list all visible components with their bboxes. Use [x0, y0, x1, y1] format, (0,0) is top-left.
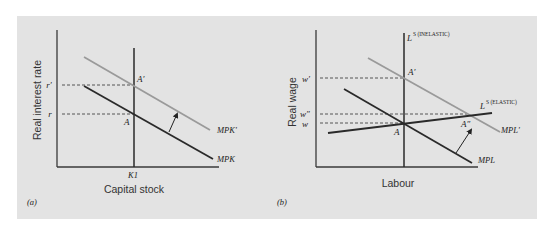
panel-b-ls-inelastic-label: L: [406, 33, 412, 43]
panel-a-tag: (a): [27, 197, 37, 207]
panel-b-shift-arrow-icon: [456, 130, 471, 153]
panel-a-r-label: r: [48, 109, 52, 119]
panel-b-w-label: w: [302, 119, 308, 129]
panel-a-x-axis-title: Capital stock: [104, 183, 165, 195]
panel-b-w-prime-label: w′: [302, 74, 311, 84]
panel-b-tag: (b): [277, 197, 287, 207]
panel-a: Real interest rate Capital stock (a) r′ …: [27, 30, 237, 207]
panel-b-ls-inelastic-sup: S (INELASTIC): [413, 31, 450, 38]
panel-a-point-a: A: [123, 117, 130, 127]
panel-b: Real wage Labour (b) w′ w″ w A′ A A″ L S…: [277, 30, 520, 207]
panel-a-shift-arrow-icon: [169, 114, 177, 132]
panel-a-mpk-prime-curve: [84, 57, 210, 130]
panel-b-mpl-label: MPL: [477, 155, 495, 165]
panel-b-ls-elastic-sup: S (ELASTIC): [486, 99, 517, 106]
panel-a-mpk-curve: [84, 86, 213, 159]
panel-b-point-a-double-prime: A″: [460, 119, 470, 129]
panel-a-point-a-prime: A′: [136, 74, 145, 84]
panel-b-w-double-prime-label: w″: [300, 109, 310, 119]
panel-a-mpk-label: MPK: [216, 154, 236, 164]
panel-a-y-axis-title: Real interest rate: [31, 60, 43, 140]
panel-b-point-a: A: [393, 127, 400, 137]
panel-b-ls-elastic-label: L: [479, 101, 485, 111]
panel-b-x-axis-title: Labour: [382, 177, 415, 189]
panel-b-mpl-curve: [344, 89, 472, 163]
panel-a-k1-label: K1: [127, 170, 138, 180]
panel-a-mpk-prime-label: MPK′: [216, 125, 237, 135]
panel-b-y-axis-title: Real wage: [286, 77, 298, 127]
panel-b-mpl-prime-label: MPL′: [500, 125, 520, 135]
panel-a-r-prime-label: r′: [46, 80, 53, 90]
panel-b-point-a-prime: A′: [407, 67, 416, 77]
figure-canvas: Real interest rate Capital stock (a) r′ …: [0, 0, 555, 229]
